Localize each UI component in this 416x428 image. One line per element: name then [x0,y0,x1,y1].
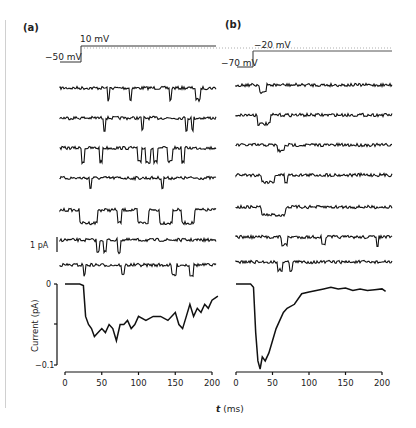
svg-text:200: 200 [204,378,220,388]
x-axis-a: 050100150200 [62,372,220,388]
svg-text:150: 150 [337,378,353,388]
svg-text:100: 100 [130,378,146,388]
single-channel-traces-b [236,83,392,271]
y-axis-a: 0 −0.1 Current (pA) [30,280,57,370]
v-hold-a: −50 mV [45,52,83,62]
svg-text:100: 100 [301,378,317,388]
v-hold-b: −70 mV [221,58,259,68]
svg-text:200: 200 [374,378,390,388]
svg-text:0: 0 [233,378,238,388]
ytick-neg-0.1: −0.1 [35,361,54,370]
panel-a-label: (a) [23,22,39,33]
average-current-trace-b [236,284,386,369]
y-axis-label: Current (pA) [30,300,40,352]
voltage-protocol-a: −50 mV 10 mV [45,34,216,62]
svg-text:0: 0 [62,378,67,388]
panel-b-label: (b) [225,19,241,30]
v-step-a: 10 mV [80,34,110,44]
x-axis-b: 050100150200 [233,372,390,388]
svg-text:150: 150 [167,378,183,388]
voltage-protocol-b: −70 mV −20 mV [216,40,392,68]
single-channel-traces-a [60,86,216,276]
average-current-trace-a [65,284,218,341]
figure: (a) (b) −50 mV 10 mV −70 mV −20 mV 1 pA … [0,0,416,428]
svg-text:50: 50 [267,378,278,388]
x-axis-label: t(ms) [216,404,244,414]
scale-bar-label: 1 pA [30,241,49,250]
ytick-0: 0 [46,280,51,289]
svg-text:50: 50 [96,378,107,388]
v-step-b: −20 mV [254,40,292,50]
